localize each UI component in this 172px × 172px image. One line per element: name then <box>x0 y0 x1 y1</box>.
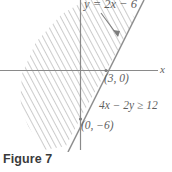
figure-caption: Figure 7 <box>3 152 52 166</box>
line-equation-label: y = 2x − 6 <box>84 0 137 11</box>
figure-container: y = 2x − 6 x (3, 0) (0, −6) 4x − 2y ≥ 12… <box>0 0 172 172</box>
y-intercept-point-label: (0, −6) <box>81 120 114 132</box>
coordinate-plot: y = 2x − 6 x (3, 0) (0, −6) 4x − 2y ≥ 12 <box>0 0 172 150</box>
inequality-label: 4x − 2y ≥ 12 <box>99 100 158 112</box>
x-intercept-point-label: (3, 0) <box>104 73 129 85</box>
x-axis-label: x <box>160 64 165 75</box>
